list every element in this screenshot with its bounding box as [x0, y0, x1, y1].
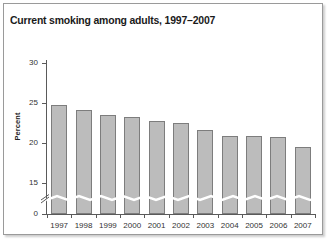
x-tick-mark	[71, 214, 72, 218]
y-tick-label: 25	[16, 99, 38, 107]
y-axis-line	[46, 60, 47, 215]
x-tick-label-2007: 2007	[289, 221, 317, 230]
x-tick-mark	[242, 214, 243, 218]
y-tick-mark	[42, 143, 46, 144]
y-tick-mark	[42, 63, 46, 64]
x-tick-mark	[193, 214, 194, 218]
x-tick-mark	[169, 214, 170, 218]
x-tick-mark	[120, 214, 121, 218]
bar-1999	[100, 115, 116, 214]
bar-2007	[295, 147, 311, 214]
x-tick-mark	[47, 214, 48, 218]
bar-2000	[124, 117, 140, 214]
bar-1998	[76, 110, 92, 214]
y-tick-label: 15	[16, 179, 38, 187]
x-tick-mark	[144, 214, 145, 218]
x-tick-mark	[291, 214, 292, 218]
x-axis-line	[46, 214, 315, 215]
bar-2001	[149, 121, 165, 214]
y-tick-label: 30	[16, 59, 38, 67]
y-tick-mark	[42, 103, 46, 104]
x-tick-mark	[315, 214, 316, 218]
plot-area: Percent 015202530 1997199819992000200120…	[4, 4, 322, 234]
x-tick-mark	[266, 214, 267, 218]
bar-2002	[173, 123, 189, 214]
x-tick-mark	[218, 214, 219, 218]
y-tick-mark	[42, 183, 46, 184]
bar-2005	[246, 136, 262, 214]
bar-2004	[222, 136, 238, 214]
y-tick-mark	[42, 214, 46, 215]
y-tick-label: 0	[16, 210, 38, 218]
y-tick-label: 20	[16, 139, 38, 147]
x-tick-mark	[96, 214, 97, 218]
chart-figure: Current smoking among adults, 1997–2007 …	[3, 3, 323, 235]
bar-2003	[197, 130, 213, 214]
axis-break-icon	[40, 194, 54, 206]
bar-2006	[270, 137, 286, 214]
